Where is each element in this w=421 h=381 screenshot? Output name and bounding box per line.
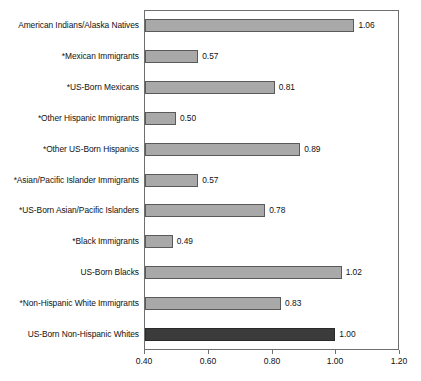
bar-value-label: 1.02 bbox=[346, 265, 362, 280]
bar-row: *Asian/Pacific Islander Immigrants0.57 bbox=[0, 173, 421, 188]
x-tick-label: 0.60 bbox=[188, 356, 228, 366]
x-tick-mark bbox=[208, 350, 209, 354]
x-tick-label: 1.20 bbox=[379, 356, 419, 366]
category-label: *US-Born Mexicans bbox=[0, 80, 139, 95]
bar-row: *US-Born Asian/Pacific Islanders0.78 bbox=[0, 203, 421, 218]
bar-row: US-Born Non-Hispanic Whites1.00 bbox=[0, 327, 421, 342]
bar-row: *US-Born Mexicans0.81 bbox=[0, 80, 421, 95]
category-label: *Mexican Immigrants bbox=[0, 49, 139, 64]
bar bbox=[145, 112, 176, 125]
bar-row: US-Born Blacks1.02 bbox=[0, 265, 421, 280]
bar-row: American Indians/Alaska Natives1.06 bbox=[0, 18, 421, 33]
bar-value-label: 1.06 bbox=[358, 18, 374, 33]
bar-value-label: 1.00 bbox=[339, 327, 355, 342]
bar bbox=[145, 204, 265, 217]
bar-row: *Non-Hispanic White Immigrants0.83 bbox=[0, 296, 421, 311]
bar bbox=[145, 50, 198, 63]
bar-value-label: 0.78 bbox=[269, 203, 285, 218]
category-label: *Non-Hispanic White Immigrants bbox=[0, 296, 139, 311]
category-label: American Indians/Alaska Natives bbox=[0, 18, 139, 33]
x-tick-mark bbox=[399, 350, 400, 354]
bar-row: *Other Hispanic Immigrants0.50 bbox=[0, 111, 421, 126]
caption-fragment bbox=[0, 372, 421, 381]
bar-value-label: 0.49 bbox=[177, 234, 193, 249]
bar-value-label: 0.57 bbox=[202, 173, 218, 188]
bar-chart-figure: American Indians/Alaska Natives1.06*Mexi… bbox=[0, 0, 421, 381]
bar-value-label: 0.50 bbox=[180, 111, 196, 126]
x-tick-mark bbox=[272, 350, 273, 354]
bar bbox=[145, 81, 275, 94]
category-label: *Asian/Pacific Islander Immigrants bbox=[0, 173, 139, 188]
bar bbox=[145, 328, 335, 341]
x-tick-mark bbox=[144, 350, 145, 354]
category-label: US-Born Blacks bbox=[0, 265, 139, 280]
bar bbox=[145, 235, 173, 248]
bar-value-label: 0.57 bbox=[202, 49, 218, 64]
bar-row: *Other US-Born Hispanics0.89 bbox=[0, 142, 421, 157]
category-label: *US-Born Asian/Pacific Islanders bbox=[0, 203, 139, 218]
bar bbox=[145, 143, 300, 156]
bar-value-label: 0.81 bbox=[279, 80, 295, 95]
x-tick-label: 0.40 bbox=[124, 356, 164, 366]
category-label: *Other Hispanic Immigrants bbox=[0, 111, 139, 126]
category-label: *Black Immigrants bbox=[0, 234, 139, 249]
bar-value-label: 0.89 bbox=[304, 142, 320, 157]
x-tick-mark bbox=[335, 350, 336, 354]
bar bbox=[145, 297, 281, 310]
category-label: US-Born Non-Hispanic Whites bbox=[0, 327, 139, 342]
x-tick-label: 0.80 bbox=[252, 356, 292, 366]
x-tick-label: 1.00 bbox=[315, 356, 355, 366]
bar-row: *Mexican Immigrants0.57 bbox=[0, 49, 421, 64]
bar bbox=[145, 174, 198, 187]
bar-row: *Black Immigrants0.49 bbox=[0, 234, 421, 249]
bar bbox=[145, 266, 342, 279]
bar bbox=[145, 19, 354, 32]
bar-value-label: 0.83 bbox=[285, 296, 301, 311]
category-label: *Other US-Born Hispanics bbox=[0, 142, 139, 157]
